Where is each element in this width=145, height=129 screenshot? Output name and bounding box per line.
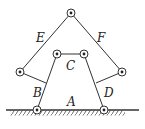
label-c: C [66, 59, 75, 73]
joint-top [67, 9, 75, 17]
joint-c-right [80, 50, 88, 58]
joint-ground-left [33, 106, 41, 114]
linkage-diagram: E F C B A D [0, 0, 145, 129]
link-b [37, 54, 57, 110]
label-b: B [32, 86, 42, 100]
link-e [20, 13, 71, 72]
joint-right [118, 68, 126, 76]
label-a: A [66, 95, 76, 109]
joint-ground-right [100, 106, 108, 114]
joint-c-left [53, 50, 61, 58]
label-f: F [96, 31, 106, 45]
link-d [84, 54, 104, 110]
joint-left [16, 68, 24, 76]
ground [6, 110, 139, 116]
label-d: D [103, 86, 114, 100]
label-e: E [35, 31, 45, 45]
